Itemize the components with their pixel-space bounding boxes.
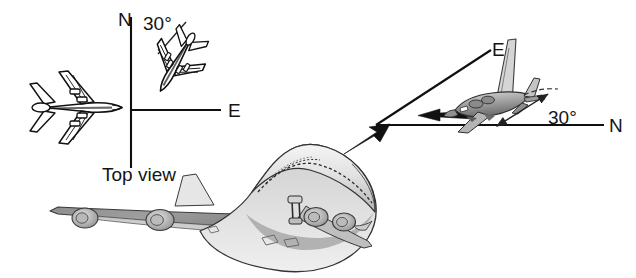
- boeing-747-perspective: [50, 144, 376, 271]
- small-engine-2: [482, 96, 495, 104]
- figure-canvas: N 30° E Top view: [0, 0, 636, 278]
- north-axis-label: N: [118, 9, 132, 30]
- top-view-caption: Top view: [102, 164, 176, 185]
- angle-label-right: 30°: [548, 107, 577, 128]
- engine-outboard-right: [333, 213, 356, 231]
- perspective-panel: E 30° N: [376, 39, 623, 136]
- tail-fin: [175, 174, 214, 206]
- north-axis-label-right: N: [609, 115, 623, 136]
- callout-arrow: [344, 124, 390, 154]
- airliner-top-view-east: [30, 71, 122, 144]
- engine-outboard-left: [72, 208, 98, 228]
- angle-label-top-view: 30°: [143, 13, 172, 34]
- east-axis-label-right: E: [492, 39, 505, 60]
- small-engine-1: [469, 100, 483, 108]
- engine-inboard-left: [146, 210, 174, 231]
- small-tail-fin: [524, 78, 540, 98]
- top-view-panel: N 30° E Top view: [30, 9, 241, 185]
- east-axis-label: E: [228, 100, 241, 121]
- diagram-svg: N 30° E Top view: [0, 0, 636, 278]
- engine-inboard-right: [304, 208, 328, 227]
